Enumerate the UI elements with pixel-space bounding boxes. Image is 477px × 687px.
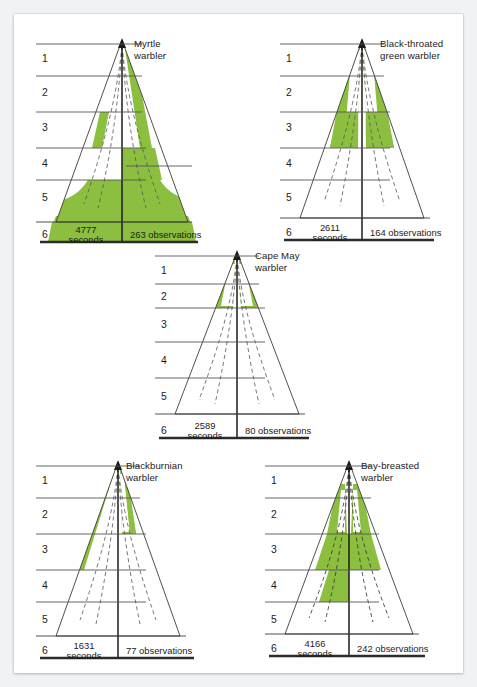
level-label-3: 3: [161, 319, 167, 330]
observations-label: 242 observations: [357, 643, 429, 654]
observations-label: 263 observations: [130, 229, 202, 240]
tree-apex: [233, 250, 241, 260]
tree-diagram-cape-may: 1 2 3 4 5 6 2589 seconds 80 observations: [147, 242, 347, 442]
level-label-1: 1: [286, 53, 292, 64]
level-label-5: 5: [286, 192, 292, 203]
level-label-4: 4: [161, 355, 167, 366]
shade-level4-mass: [122, 148, 162, 180]
species-title-black-throated-green: Black-throated green warbler: [380, 38, 443, 61]
level-label-4: 4: [42, 580, 48, 591]
level-label-5: 5: [271, 614, 277, 625]
level-label-1: 1: [42, 53, 48, 64]
level-rules: [265, 466, 379, 602]
level-label-4: 4: [271, 580, 277, 591]
level-rules: [280, 44, 390, 180]
panel-myrtle: 1 2 3 4 5 6 4777 seconds 263 observation…: [22, 26, 237, 246]
level-label-3: 3: [42, 544, 48, 555]
tree-diagram-myrtle: 1 2 3 4 5 6 4777 seconds 263 observation…: [22, 26, 237, 246]
level-label-5: 5: [42, 614, 48, 625]
level-label-2: 2: [271, 509, 277, 520]
panel-cape-may: 1 2 3 4 5 6 2589 seconds 80 observations…: [147, 242, 347, 442]
seconds-unit: seconds: [188, 430, 223, 441]
level-label-1: 1: [161, 265, 167, 276]
level-label-4: 4: [286, 158, 292, 169]
shade-left-lower: [330, 112, 358, 148]
tree-apex: [345, 460, 353, 470]
figure-card: 1 2 3 4 5 6 4777 seconds 263 observation…: [14, 14, 463, 673]
level-label-2: 2: [161, 291, 167, 302]
panel-bay-breasted: 1 2 3 4 5 6 4166 seconds 242 observation…: [257, 448, 467, 663]
level-label-4: 4: [42, 158, 48, 169]
level-label-3: 3: [271, 544, 277, 555]
shade-level3-band: [315, 534, 381, 570]
shade-level4-wedge: [319, 570, 349, 602]
species-title-cape-may: Cape May warbler: [255, 250, 300, 273]
observations-label: 164 observations: [370, 227, 442, 238]
level-label-6: 6: [42, 645, 48, 656]
seconds-unit: seconds: [67, 650, 102, 661]
level-rules: [36, 466, 146, 602]
level-label-3: 3: [286, 122, 292, 133]
species-title-blackburnian: Blackburnian warbler: [126, 460, 183, 483]
level-rules: [155, 256, 265, 378]
tree-apex: [118, 38, 126, 48]
level-label-1: 1: [42, 475, 48, 486]
figure-page: 1 2 3 4 5 6 4777 seconds 263 observation…: [0, 0, 477, 687]
level-label-6: 6: [42, 229, 48, 240]
level-label-5: 5: [161, 391, 167, 402]
level-label-2: 2: [42, 509, 48, 520]
species-title-myrtle: Myrtle warbler: [134, 38, 166, 61]
observations-label: 77 observations: [126, 645, 193, 656]
level-label-2: 2: [42, 87, 48, 98]
level-label-5: 5: [42, 192, 48, 203]
tree-apex: [114, 460, 122, 470]
panel-blackburnian: 1 2 3 4 5 6 1631 seconds 77 observations…: [22, 448, 232, 663]
seconds-unit: seconds: [69, 234, 104, 245]
panel-black-throated-green: 1 2 3 4 5 6 2611 seconds 164 observation…: [272, 26, 472, 246]
seconds-unit: seconds: [298, 648, 333, 659]
species-title-bay-breasted: Bay-breasted warbler: [361, 460, 419, 483]
level-label-1: 1: [271, 475, 277, 486]
level-label-3: 3: [42, 122, 48, 133]
level-label-6: 6: [286, 227, 292, 238]
observations-label: 80 observations: [245, 425, 312, 436]
level-label-2: 2: [286, 87, 292, 98]
tree-apex: [358, 38, 366, 48]
level-label-6: 6: [161, 425, 167, 436]
shaded-zone-group: [315, 484, 381, 602]
level-label-6: 6: [271, 643, 277, 654]
shade-right-lower: [366, 112, 394, 148]
level-rules: [36, 44, 192, 180]
